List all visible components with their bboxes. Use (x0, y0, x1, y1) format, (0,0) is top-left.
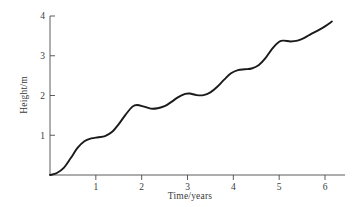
x-tick-label: 4 (231, 182, 236, 192)
x-tick-label: 5 (277, 182, 282, 192)
x-tick-label: 6 (323, 182, 328, 192)
y-tick-label: 2 (40, 91, 45, 101)
height-curve (50, 22, 332, 175)
height-vs-time-chart: 1234 123456 Height/m Time/years (0, 0, 364, 207)
y-tick-label: 3 (40, 51, 45, 61)
y-tick-label: 4 (40, 11, 45, 21)
x-tick-label: 1 (93, 182, 98, 192)
chart-page: 1234 123456 Height/m Time/years (0, 0, 364, 207)
x-tick-label: 2 (139, 182, 144, 192)
y-axis-ticks: 1234 (40, 11, 55, 140)
x-axis-title: Time/years (168, 191, 213, 201)
y-axis-title: Height/m (19, 76, 29, 114)
y-tick-label: 1 (40, 131, 45, 141)
x-axis-ticks: 123456 (93, 175, 327, 192)
